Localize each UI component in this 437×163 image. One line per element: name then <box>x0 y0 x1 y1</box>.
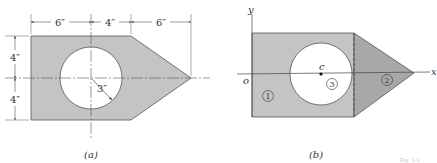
caption-a: (a) <box>84 149 98 160</box>
dim-top-left: 6″ <box>55 17 65 28</box>
centroid-label: c <box>319 61 325 72</box>
dim-top-right: 6″ <box>156 17 166 28</box>
dim-left-upper: 4″ <box>10 52 20 63</box>
y-axis-label: y <box>247 4 254 15</box>
radius-label: 3″ <box>97 83 107 94</box>
centroid-point <box>319 72 322 75</box>
figure-canvas: 6″ 4″ 6″ 4″ 4″ 3″ (a) y x o c <box>0 0 437 163</box>
svg-text:2: 2 <box>384 76 389 85</box>
dim-top-middle: 4″ <box>105 17 115 28</box>
svg-text:3: 3 <box>329 80 334 89</box>
dim-left-lower: 4″ <box>10 94 20 105</box>
origin-label: o <box>243 75 249 86</box>
figure-a: 6″ 4″ 6″ 4″ 4″ 3″ (a) <box>5 14 210 160</box>
region-2-triangle <box>354 33 414 117</box>
svg-text:1: 1 <box>265 92 270 101</box>
x-axis-label: x <box>431 66 437 77</box>
figure-b: y x o c 1 2 3 (b) <box>237 4 437 160</box>
caption-b: (b) <box>309 149 323 160</box>
footer-fragment: Fig. 1-5 <box>400 157 420 163</box>
region-marker-3: 3 <box>327 79 338 90</box>
region-1-rectangle <box>252 33 354 117</box>
